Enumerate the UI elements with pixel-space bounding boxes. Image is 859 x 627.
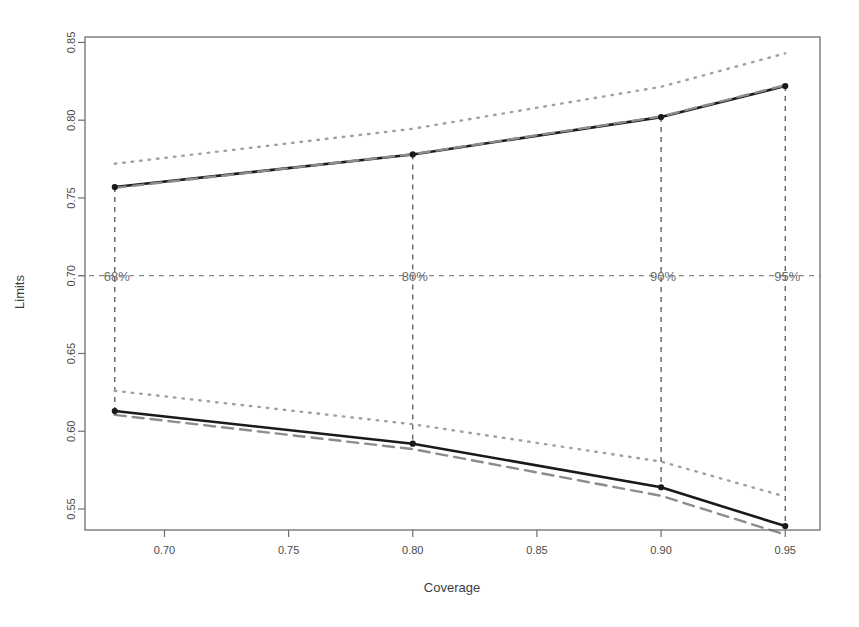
y-tick-label: 0.80 <box>65 109 77 130</box>
data-point-marker <box>658 114 664 120</box>
y-axis-title: Limits <box>12 275 27 309</box>
coverage-annotation-95: 95% <box>774 269 800 284</box>
y-tick-label: 0.75 <box>65 187 77 208</box>
x-tick-label: 0.90 <box>650 544 671 556</box>
y-tick-label: 0.70 <box>65 265 77 286</box>
data-point-marker <box>782 83 788 89</box>
y-tick-label: 0.85 <box>65 32 77 53</box>
x-tick-label: 0.70 <box>154 544 175 556</box>
y-tick-label: 0.65 <box>65 343 77 364</box>
x-tick-label: 0.85 <box>526 544 547 556</box>
x-tick-label: 0.80 <box>402 544 423 556</box>
coverage-annotation-68: 68% <box>104 269 130 284</box>
chart-background <box>0 0 859 627</box>
coverage-annotation-80: 80% <box>402 269 428 284</box>
data-point-marker <box>410 441 416 447</box>
y-tick-label: 0.55 <box>65 498 77 519</box>
data-point-marker <box>782 523 788 529</box>
y-tick-label: 0.60 <box>65 421 77 442</box>
data-point-marker <box>112 184 118 190</box>
data-point-marker <box>410 151 416 157</box>
data-point-marker <box>658 484 664 490</box>
x-axis-title: Coverage <box>424 580 480 595</box>
limits-vs-coverage-line-chart: 0.700.750.800.850.900.95 0.550.600.650.7… <box>0 0 859 627</box>
x-tick-label: 0.75 <box>278 544 299 556</box>
coverage-annotation-90: 90% <box>650 269 676 284</box>
x-tick-label: 0.95 <box>775 544 796 556</box>
chart-figure: 0.700.750.800.850.900.95 0.550.600.650.7… <box>0 0 859 627</box>
data-point-marker <box>112 408 118 414</box>
